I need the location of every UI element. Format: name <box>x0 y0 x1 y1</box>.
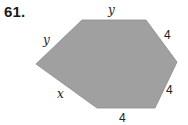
hexagon-figure: y y 4 4 4 x <box>0 0 188 125</box>
label-bottom-side: 4 <box>119 111 126 125</box>
label-top-side: y <box>107 3 115 17</box>
label-upper-left-side: y <box>42 33 50 47</box>
label-upper-right-side: 4 <box>164 28 171 42</box>
label-lower-right-side: 4 <box>166 83 173 97</box>
label-lower-left-side: x <box>57 87 64 101</box>
